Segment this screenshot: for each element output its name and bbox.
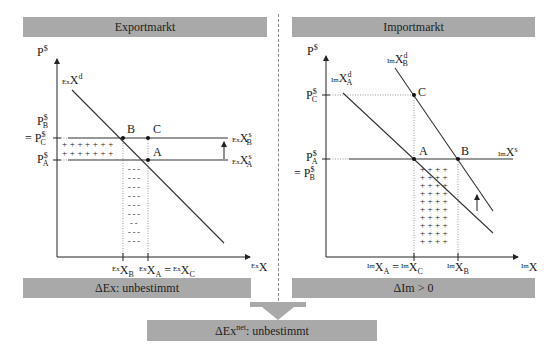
net-export-result-text: ΔExnet: unbestimmt bbox=[215, 323, 309, 339]
import-result-text: ΔIm > 0 bbox=[394, 281, 434, 296]
import-y-axis-label: P$ bbox=[307, 43, 318, 58]
export-plus-area: +++++++ +++++++ bbox=[62, 139, 116, 158]
import-x-tick-b: ImXB bbox=[447, 260, 469, 276]
svg-text:- - -: - - - bbox=[128, 183, 140, 192]
import-point-b bbox=[456, 157, 460, 161]
export-result-bar: ΔEx: unbestimmt bbox=[23, 278, 251, 298]
import-x-axis-label: ImX bbox=[521, 260, 538, 274]
import-demand-b-label: ImXdB bbox=[387, 51, 408, 68]
import-x-tick-a-c: ImXA=ImXC bbox=[367, 260, 423, 276]
svg-text:++++: ++++ bbox=[420, 236, 450, 246]
export-point-b-label: B bbox=[127, 122, 135, 136]
svg-text:- - -: - - - bbox=[128, 201, 140, 210]
export-chart: P$ ExXd P$B = P$C P$A ExXsB ExXsA B C A bbox=[25, 44, 268, 279]
svg-text:- - -: - - - bbox=[128, 165, 140, 174]
export-x-axis-label: ExX bbox=[251, 260, 268, 274]
combine-arrow-icon bbox=[250, 302, 306, 320]
import-point-a bbox=[412, 157, 416, 161]
export-demand-line bbox=[72, 90, 224, 243]
import-price-label-a: P$A bbox=[306, 149, 318, 166]
export-result-text: ΔEx: unbestimmt bbox=[95, 281, 179, 296]
svg-text:- - -: - - - bbox=[128, 210, 140, 219]
svg-text:- - -: - - - bbox=[128, 192, 140, 201]
import-point-c-label: C bbox=[418, 85, 426, 99]
import-demand-a-label: ImXdA bbox=[331, 70, 352, 87]
import-result-bar: ΔIm > 0 bbox=[292, 278, 535, 298]
export-x-tick-a-c: ExXA=ExXC bbox=[139, 263, 195, 279]
export-y-axis-label: P$ bbox=[37, 44, 48, 59]
svg-text:- - -: - - - bbox=[128, 228, 140, 237]
import-chart: P$ ImXdA ImXdB P$C P$A = P$B ++++ ++++ +… bbox=[294, 43, 538, 276]
net-export-result-bar: ΔExnet: unbestimmt bbox=[147, 320, 377, 341]
figure-caption-cropped bbox=[20, 355, 540, 361]
export-price-label-c: = P$C bbox=[25, 130, 46, 147]
export-price-label-b: P$B bbox=[37, 113, 48, 130]
export-price-label-a: P$A bbox=[37, 151, 49, 168]
export-x-tick-b: ExXB bbox=[112, 263, 134, 279]
import-point-a-label: A bbox=[419, 144, 428, 158]
import-demand-a-line bbox=[343, 93, 493, 233]
import-price-label-b: = P$B bbox=[294, 165, 315, 182]
svg-text:- - -: - - - bbox=[128, 237, 140, 246]
import-price-label-c: P$C bbox=[306, 87, 317, 104]
export-point-c bbox=[146, 136, 150, 140]
export-point-b bbox=[121, 136, 125, 140]
import-point-c bbox=[412, 93, 416, 97]
import-plus-area: ++++ ++++ ++++ ++++ ++++ ++++ ++++ ++++ … bbox=[420, 164, 450, 246]
export-supply-b-label: ExXsB bbox=[232, 130, 252, 147]
export-supply-a-label: ExXsA bbox=[232, 152, 253, 169]
export-point-c-label: C bbox=[153, 122, 161, 136]
import-point-b-label: B bbox=[461, 144, 469, 158]
export-point-a-label: A bbox=[153, 145, 162, 159]
diagram-canvas: P$ ExXd P$B = P$C P$A ExXsB ExXsA B C A bbox=[0, 0, 556, 361]
svg-text:+++++++: +++++++ bbox=[62, 148, 116, 158]
svg-text:- - -: - - - bbox=[128, 174, 140, 183]
export-minus-area: - - - - - - - - - - - - - - - - - - - - … bbox=[128, 165, 140, 246]
export-point-a bbox=[146, 158, 150, 162]
svg-text:- -: - - bbox=[130, 219, 138, 228]
export-demand-label: ExXd bbox=[62, 72, 82, 87]
import-supply-label: ImXs bbox=[498, 145, 518, 159]
